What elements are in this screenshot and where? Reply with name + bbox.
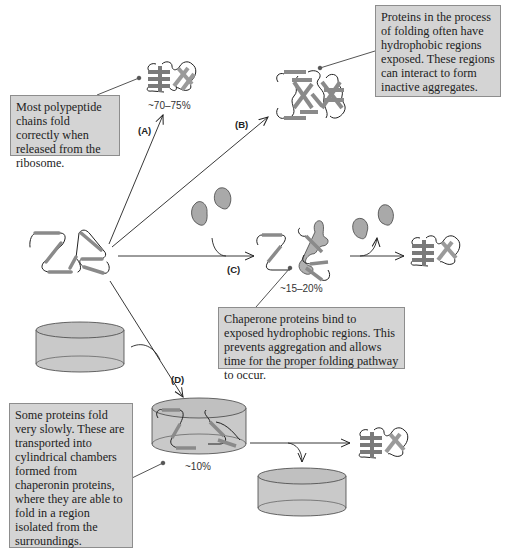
percentage-c: ~15–20% bbox=[280, 283, 323, 294]
unfolded-polypeptide-icon bbox=[30, 230, 109, 273]
protein-aggregate-icon bbox=[277, 71, 345, 119]
chaperone-release-curve bbox=[360, 238, 377, 256]
folded-protein-c-icon bbox=[411, 236, 460, 266]
callout-chaperonin: Some proteins fold very slowly. These ar… bbox=[9, 403, 133, 548]
chaperone-proteins-icon bbox=[192, 188, 231, 226]
released-chaperones-icon bbox=[353, 205, 394, 239]
percentage-d: ~10% bbox=[185, 461, 211, 472]
callout-aggregates: Proteins in the process of folding often… bbox=[375, 5, 501, 97]
chaperonin-enter-curve bbox=[131, 345, 160, 360]
pathway-label-b: (B) bbox=[235, 119, 248, 130]
released-chaperonin-cylinder-icon bbox=[258, 468, 346, 516]
chaperone-bound-protein-icon bbox=[257, 221, 330, 281]
chaperonin-chamber-with-protein-icon bbox=[152, 398, 246, 454]
callout-most-fold: Most polypeptide chains fold correctly w… bbox=[10, 95, 120, 156]
chaperone-bind-curve bbox=[212, 238, 226, 256]
chaperonin-cylinder-icon bbox=[36, 322, 124, 372]
percentage-a: ~70–75% bbox=[148, 100, 191, 111]
callout-chaperone: Chaperone proteins bind to exposed hydro… bbox=[218, 307, 405, 369]
pathway-label-d: (D) bbox=[171, 374, 184, 385]
pathway-label-a: (A) bbox=[138, 125, 151, 136]
folded-protein-icon bbox=[147, 62, 196, 92]
chaperonin-release-curve bbox=[288, 443, 302, 462]
pathway-label-c: (C) bbox=[227, 264, 240, 275]
folded-protein-d-icon bbox=[359, 428, 408, 458]
